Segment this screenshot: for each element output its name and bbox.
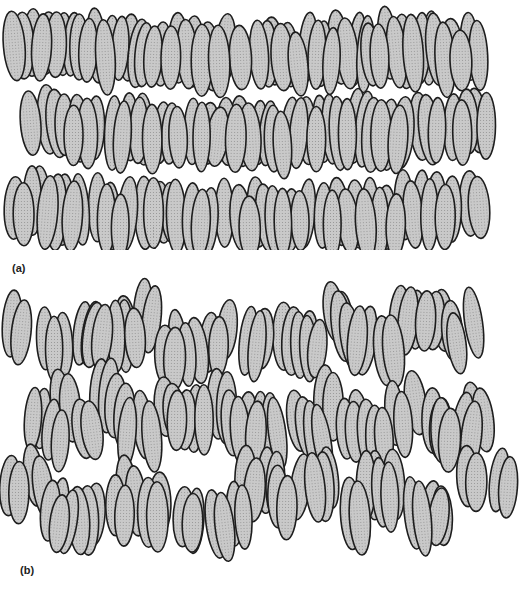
molecule-ellipse: [167, 390, 188, 450]
molecule-diagram-b: [0, 0, 529, 592]
panel-label-b: (b): [20, 564, 34, 576]
molecule-ellipse: [146, 482, 168, 552]
molecule-ellipse: [465, 453, 487, 512]
molecule-ellipse: [195, 385, 214, 455]
molecule-ellipse: [276, 475, 297, 540]
molecule-ellipse: [8, 461, 29, 523]
